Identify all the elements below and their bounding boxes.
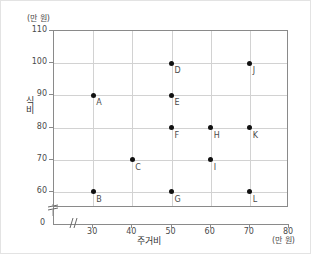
y-tick-label: 70 <box>21 155 47 163</box>
gridline-vertical <box>132 31 133 206</box>
y-tick-label: 110 <box>21 26 47 34</box>
x-tick-label: 40 <box>119 228 143 236</box>
y-tick-label: 90 <box>21 90 47 98</box>
gridline-vertical <box>93 31 94 206</box>
plot-area: ABCDEFGHIJKL <box>53 30 288 207</box>
data-point-label: F <box>175 132 180 140</box>
origin-tick-label: 0 <box>40 219 45 227</box>
data-point-label: D <box>175 67 181 75</box>
data-point-label: G <box>175 196 181 204</box>
x-axis-break-icon <box>67 217 79 229</box>
data-point-label: E <box>175 99 180 107</box>
x-tick-mark <box>210 224 211 228</box>
data-point-label: C <box>135 164 141 172</box>
gridline-vertical <box>250 31 251 206</box>
data-point-label: H <box>214 132 220 140</box>
y-axis-break-icon <box>46 204 60 216</box>
x-tick-mark <box>288 224 289 228</box>
data-point <box>91 189 96 194</box>
x-tick-label: 60 <box>198 228 222 236</box>
data-point <box>91 93 96 98</box>
data-point <box>169 93 174 98</box>
gridline-vertical <box>211 31 212 206</box>
x-tick-label: 50 <box>159 228 183 236</box>
y-axis-title: 식비 <box>24 97 35 116</box>
data-point <box>169 61 174 66</box>
data-point-label: K <box>253 132 258 140</box>
x-tick-label: 70 <box>237 228 261 236</box>
data-point-label: A <box>96 99 101 107</box>
y-axis-unit-label: (만 원) <box>27 15 50 23</box>
data-point <box>130 157 135 162</box>
x-tick-mark <box>131 224 132 228</box>
data-point <box>247 61 252 66</box>
y-tick-label: 60 <box>21 187 47 195</box>
chart-figure: (만 원) 식비 60708090100110 ABCDEFGHIJKL 0 3… <box>0 0 311 254</box>
x-tick-label: 80 <box>276 228 300 236</box>
data-point <box>247 189 252 194</box>
x-axis-title: 주거비 <box>137 237 161 246</box>
y-tick-label: 100 <box>21 58 47 66</box>
gridline-horizontal <box>54 160 287 161</box>
data-point <box>169 125 174 130</box>
x-axis-unit-label: (만 원) <box>272 237 295 245</box>
data-point <box>208 125 213 130</box>
x-tick-mark <box>249 224 250 228</box>
data-point-label: J <box>253 67 255 75</box>
x-tick-label: 30 <box>80 228 104 236</box>
x-tick-mark <box>171 224 172 228</box>
y-tick-label: 80 <box>21 123 47 131</box>
data-point <box>247 125 252 130</box>
data-point <box>208 157 213 162</box>
x-tick-mark <box>92 224 93 228</box>
data-point-label: B <box>96 196 102 204</box>
data-point-label: I <box>214 164 216 172</box>
gridline-vertical <box>172 31 173 206</box>
data-point-label: L <box>253 196 257 204</box>
data-point <box>169 189 174 194</box>
